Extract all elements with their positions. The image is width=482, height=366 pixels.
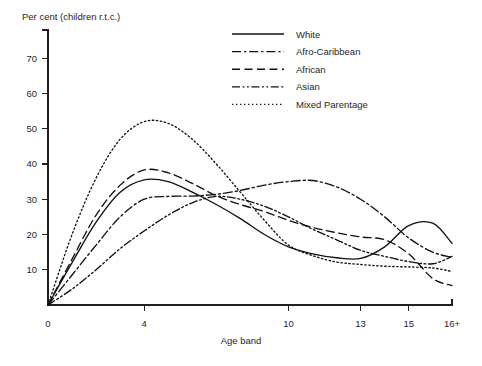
x-tick-label: 4 — [142, 318, 147, 329]
legend-label-mixed-parentage: Mixed Parentage — [296, 99, 368, 110]
series-line-mixed-parentage — [48, 120, 452, 305]
series-line-african — [48, 169, 452, 305]
chart-legend: WhiteAfro-CaribbeanAfricanAsianMixed Par… — [232, 29, 368, 110]
y-tick-label: 60 — [26, 88, 37, 99]
x-axis-title: Age band — [221, 335, 262, 346]
y-tick-label: 70 — [26, 53, 37, 64]
y-tick-label: 40 — [26, 158, 37, 169]
x-tick-label: 0 — [45, 318, 50, 329]
y-tick-label: 30 — [26, 194, 37, 205]
line-chart-svg: Per cent (children r.t.c.) 1020304050607… — [0, 0, 482, 366]
x-tick-label: 15 — [403, 318, 414, 329]
plot-axes: 10203040506070 0410131516+ — [26, 30, 460, 329]
y-axis-title: Per cent (children r.t.c.) — [22, 11, 120, 22]
y-axis-tick-labels: 10203040506070 — [26, 53, 37, 276]
legend-label-african: African — [296, 64, 326, 75]
legend-label-white: White — [296, 29, 320, 40]
data-series-group — [48, 120, 452, 305]
chart-figure: Per cent (children r.t.c.) 1020304050607… — [0, 0, 482, 366]
series-line-asian — [48, 196, 452, 305]
y-tick-label: 20 — [26, 229, 37, 240]
y-axis-tick-marks — [42, 58, 48, 270]
x-tick-label: 16+ — [444, 318, 461, 329]
x-tick-label: 13 — [355, 318, 366, 329]
x-axis-tick-marks — [144, 305, 409, 311]
y-tick-label: 10 — [26, 264, 37, 275]
legend-label-afro-caribbean: Afro-Caribbean — [296, 46, 360, 57]
x-axis-tick-labels: 0410131516+ — [45, 318, 460, 329]
x-tick-label: 10 — [283, 318, 294, 329]
legend-label-asian: Asian — [296, 81, 320, 92]
y-tick-label: 50 — [26, 123, 37, 134]
